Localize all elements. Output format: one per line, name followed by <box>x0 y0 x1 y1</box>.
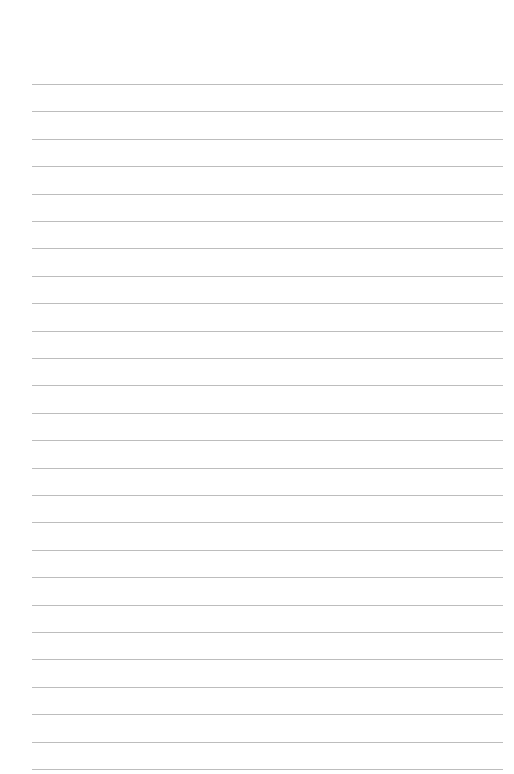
ruled-line <box>32 166 503 167</box>
ruled-line <box>32 111 503 112</box>
ruled-line <box>32 413 503 414</box>
ruled-line <box>32 276 503 277</box>
ruled-line <box>32 742 503 743</box>
ruled-line <box>32 331 503 332</box>
ruled-line <box>32 248 503 249</box>
ruled-line <box>32 194 503 195</box>
ruled-line <box>32 221 503 222</box>
ruled-line <box>32 358 503 359</box>
ruled-line <box>32 687 503 688</box>
ruled-line <box>32 659 503 660</box>
ruled-line <box>32 550 503 551</box>
lined-paper-page <box>0 0 514 774</box>
ruled-line <box>32 605 503 606</box>
ruled-line <box>32 84 503 85</box>
ruled-line <box>32 522 503 523</box>
ruled-line <box>32 139 503 140</box>
ruled-line <box>32 769 503 770</box>
ruled-line <box>32 303 503 304</box>
ruled-line <box>32 385 503 386</box>
ruled-line <box>32 440 503 441</box>
ruled-line <box>32 632 503 633</box>
ruled-line <box>32 495 503 496</box>
ruled-line <box>32 714 503 715</box>
ruled-line <box>32 468 503 469</box>
ruled-line <box>32 577 503 578</box>
